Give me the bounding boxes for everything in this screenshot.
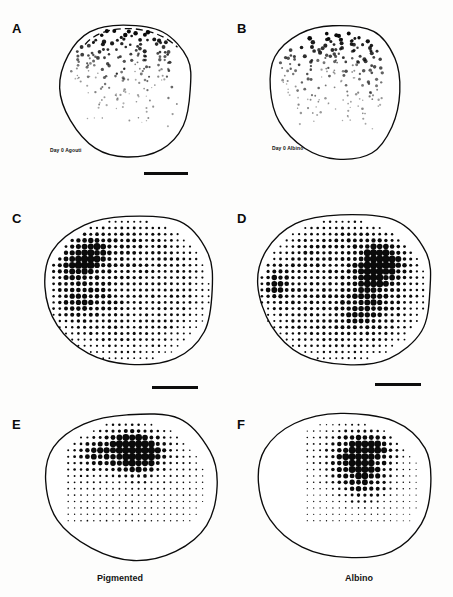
density-dot xyxy=(176,455,179,458)
density-dot xyxy=(384,319,387,322)
density-dot xyxy=(338,424,340,426)
density-dot xyxy=(409,482,410,483)
density-dot xyxy=(352,281,357,286)
density-dot xyxy=(146,345,148,347)
density-dot xyxy=(358,268,364,274)
density-dot xyxy=(313,456,315,458)
density-dot xyxy=(176,332,178,334)
density-dot xyxy=(189,289,192,292)
cell-dot xyxy=(361,43,364,46)
cell-dot xyxy=(161,79,162,80)
cell-dot xyxy=(137,54,139,56)
density-dot xyxy=(157,245,161,249)
density-dot xyxy=(310,307,313,310)
density-dot xyxy=(323,227,326,230)
density-dot xyxy=(365,306,371,312)
density-dot xyxy=(183,332,185,334)
density-dot xyxy=(139,307,142,310)
density-dot xyxy=(118,488,120,490)
cell-dot xyxy=(325,54,328,57)
cell-dot xyxy=(296,89,299,92)
density-dot xyxy=(89,307,93,311)
density-dot xyxy=(313,488,314,489)
density-dot xyxy=(151,282,154,285)
cell-dot xyxy=(138,47,142,51)
density-dot xyxy=(99,494,101,496)
cell-dot xyxy=(317,87,320,90)
density-dot xyxy=(129,434,135,440)
cell-dot xyxy=(346,91,348,93)
density-dot xyxy=(371,319,375,323)
density-dot xyxy=(163,514,165,516)
density-dot xyxy=(310,288,314,292)
density-dot xyxy=(322,319,325,322)
density-dot xyxy=(371,306,376,311)
density-dot xyxy=(366,357,368,359)
density-dot xyxy=(182,270,185,273)
cell-dot xyxy=(310,99,312,101)
density-dot xyxy=(176,462,178,464)
density-dot xyxy=(114,307,118,311)
density-dot xyxy=(391,338,393,340)
cell-dot xyxy=(115,48,118,51)
density-dot xyxy=(98,461,103,466)
density-dot xyxy=(313,494,314,495)
cell-dot xyxy=(162,45,166,49)
density-dot xyxy=(368,453,375,460)
cell-dot xyxy=(76,67,78,69)
density-dot xyxy=(118,423,121,426)
density-dot xyxy=(84,345,86,347)
density-dot xyxy=(360,221,362,223)
cell-dot xyxy=(114,75,117,78)
density-dot xyxy=(120,319,123,322)
density-dot xyxy=(82,294,87,299)
density-dot xyxy=(285,258,288,261)
density-dot xyxy=(319,462,321,464)
density-dot xyxy=(137,481,139,483)
density-dot xyxy=(76,269,81,274)
density-dot xyxy=(145,227,148,230)
density-dot xyxy=(409,462,411,464)
cell-dot xyxy=(342,99,344,101)
density-dot xyxy=(89,326,92,329)
density-dot xyxy=(122,440,129,447)
density-dot xyxy=(208,302,210,304)
density-dot xyxy=(391,332,394,335)
density-dot xyxy=(335,313,338,316)
density-dot xyxy=(65,320,68,323)
density-dot xyxy=(152,357,154,359)
density-dot xyxy=(139,357,141,359)
density-dot xyxy=(422,270,424,272)
density-dot xyxy=(189,475,191,477)
density-dot xyxy=(86,475,88,477)
density-dot xyxy=(390,307,394,311)
density-dot xyxy=(351,514,352,515)
density-dot xyxy=(313,430,315,432)
density-dot xyxy=(372,338,375,341)
density-dot xyxy=(347,227,350,230)
density-dot xyxy=(133,233,136,236)
density-dot xyxy=(170,345,172,347)
density-dot xyxy=(291,319,294,322)
density-dot xyxy=(409,257,412,260)
density-dot xyxy=(304,282,307,285)
density-dot xyxy=(341,251,344,254)
density-dot xyxy=(358,424,360,426)
density-dot xyxy=(163,462,166,465)
density-dot xyxy=(106,501,108,503)
cell-dot xyxy=(359,98,361,100)
density-dot xyxy=(76,288,81,293)
density-dot xyxy=(120,326,123,329)
density-dot xyxy=(103,447,109,453)
density-dot xyxy=(328,288,332,292)
density-dot xyxy=(120,245,124,249)
density-dot xyxy=(396,494,398,496)
density-dot xyxy=(114,326,117,329)
density-dot xyxy=(339,520,340,521)
density-dot xyxy=(107,250,112,255)
density-dot xyxy=(372,351,374,353)
density-dot xyxy=(390,301,394,305)
density-dot xyxy=(64,282,68,286)
density-dot xyxy=(344,480,348,484)
cell-dot xyxy=(86,62,88,64)
